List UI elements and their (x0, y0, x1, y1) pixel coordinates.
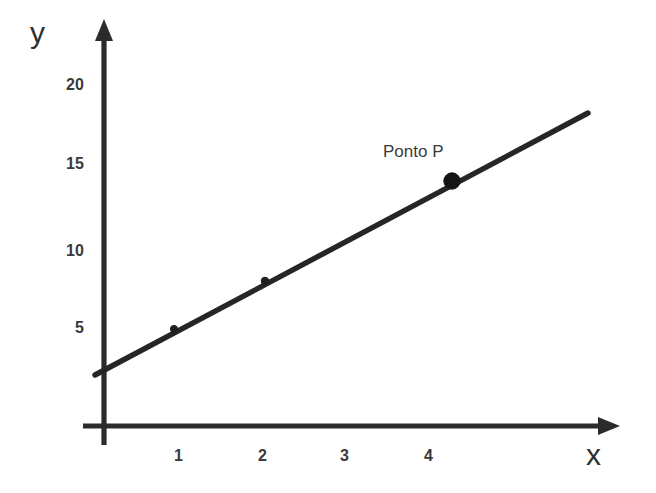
y-axis-label: y (30, 18, 45, 48)
ponto-p-marker (444, 173, 460, 189)
y-tick-label-10: 10 (66, 243, 84, 259)
x-tick-label-1: 1 (174, 448, 183, 464)
x-tick-label-3: 3 (340, 448, 349, 464)
x-axis-label: x (586, 440, 601, 470)
x-axis-arrow-icon (598, 417, 620, 435)
data-series-line (95, 113, 588, 375)
chart-canvas (0, 0, 656, 493)
ponto-p-annotation: Ponto P (383, 143, 444, 160)
x-tick-label-4: 4 (424, 448, 433, 464)
y-tick-label-20: 20 (66, 77, 84, 93)
data-point-marker (261, 277, 269, 285)
x-tick-label-2: 2 (258, 448, 267, 464)
y-tick-label-5: 5 (75, 320, 84, 336)
y-tick-label-15: 15 (66, 156, 84, 172)
data-point-marker (170, 325, 177, 332)
chart-figure: y x 20 15 10 5 1 2 3 4 Ponto P (0, 0, 656, 493)
y-axis-arrow-icon (95, 19, 113, 41)
